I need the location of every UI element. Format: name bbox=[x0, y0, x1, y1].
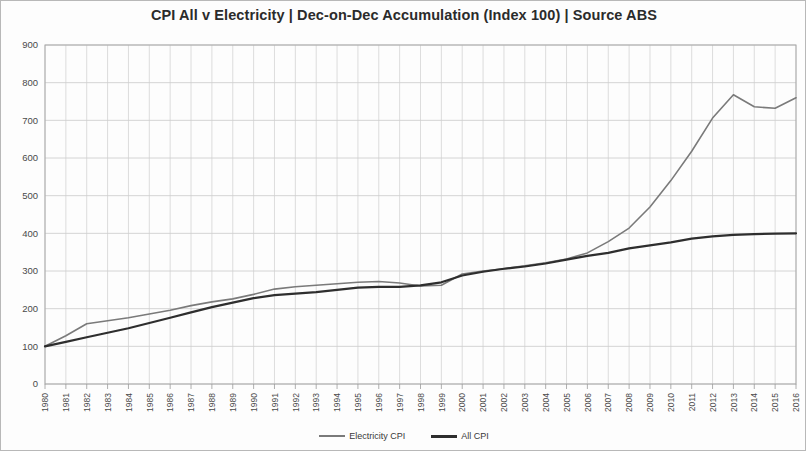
y-tick-label: 100 bbox=[22, 341, 38, 352]
x-tick-label: 1986 bbox=[165, 393, 175, 412]
x-tick-label: 2008 bbox=[624, 393, 634, 412]
x-tick-label: 1987 bbox=[186, 393, 196, 412]
x-tick-label: 1980 bbox=[40, 393, 50, 412]
chart-container: CPI All v Electricity | Dec-on-Dec Accum… bbox=[0, 0, 806, 451]
legend-label-electricity-cpi: Electricity CPI bbox=[349, 431, 405, 441]
x-tick-label: 2007 bbox=[603, 393, 613, 412]
y-tick-label: 900 bbox=[22, 39, 38, 50]
x-tick-label: 1993 bbox=[311, 393, 321, 412]
x-tick-label: 1998 bbox=[416, 393, 426, 412]
x-tick-label: 1992 bbox=[291, 393, 301, 412]
legend-swatch-electricity-cpi bbox=[319, 435, 345, 437]
x-axis-tick-labels: 1980198119821983198419851986198719881989… bbox=[40, 393, 801, 412]
x-tick-label: 2012 bbox=[708, 393, 718, 412]
x-tick-label: 1999 bbox=[437, 393, 447, 412]
x-tick-label: 2015 bbox=[770, 393, 780, 412]
x-tick-label: 2001 bbox=[478, 393, 488, 412]
x-tick-label: 1982 bbox=[82, 393, 92, 412]
x-tick-label: 2010 bbox=[666, 393, 676, 412]
x-tick-label: 1984 bbox=[124, 393, 134, 412]
y-tick-label: 400 bbox=[22, 228, 38, 239]
chart-plot-area: 0100200300400500600700800900 19801981198… bbox=[1, 1, 806, 451]
x-tick-label: 1996 bbox=[374, 393, 384, 412]
legend-swatch-all-cpi bbox=[431, 435, 457, 438]
legend-item-electricity-cpi[interactable]: Electricity CPI bbox=[319, 431, 405, 441]
x-tick-label: 2014 bbox=[749, 393, 759, 412]
gridlines bbox=[45, 45, 796, 384]
y-tick-label: 600 bbox=[22, 152, 38, 163]
x-tick-label: 2016 bbox=[791, 393, 801, 412]
x-tick-label: 2011 bbox=[687, 393, 697, 412]
x-tick-label: 2003 bbox=[520, 393, 530, 412]
x-tick-label: 2005 bbox=[562, 393, 572, 412]
x-tick-label: 1995 bbox=[353, 393, 363, 412]
x-tick-label: 1989 bbox=[228, 393, 238, 412]
x-tick-label: 2000 bbox=[457, 393, 467, 412]
x-tick-label: 2006 bbox=[583, 393, 593, 412]
y-axis-tick-labels: 0100200300400500600700800900 bbox=[22, 39, 38, 389]
x-axis-tick-marks bbox=[45, 384, 796, 389]
x-tick-label: 2009 bbox=[645, 393, 655, 412]
y-tick-label: 300 bbox=[22, 265, 38, 276]
y-tick-label: 200 bbox=[22, 303, 38, 314]
x-tick-label: 2013 bbox=[729, 393, 739, 412]
x-tick-label: 1985 bbox=[145, 393, 155, 412]
legend-item-all-cpi[interactable]: All CPI bbox=[431, 431, 489, 441]
y-tick-label: 700 bbox=[22, 115, 38, 126]
x-tick-label: 1981 bbox=[61, 393, 71, 412]
y-tick-label: 500 bbox=[22, 190, 38, 201]
x-tick-label: 1991 bbox=[270, 393, 280, 412]
legend-label-all-cpi: All CPI bbox=[461, 431, 489, 441]
y-tick-label: 800 bbox=[22, 77, 38, 88]
x-tick-label: 1983 bbox=[103, 393, 113, 412]
x-tick-label: 1990 bbox=[249, 393, 259, 412]
x-tick-label: 1994 bbox=[332, 393, 342, 412]
x-tick-label: 2004 bbox=[541, 393, 551, 412]
x-tick-label: 2002 bbox=[499, 393, 509, 412]
x-tick-label: 1997 bbox=[395, 393, 405, 412]
x-tick-label: 1988 bbox=[207, 393, 217, 412]
y-tick-label: 0 bbox=[33, 378, 38, 389]
chart-legend: Electricity CPI All CPI bbox=[1, 431, 806, 441]
